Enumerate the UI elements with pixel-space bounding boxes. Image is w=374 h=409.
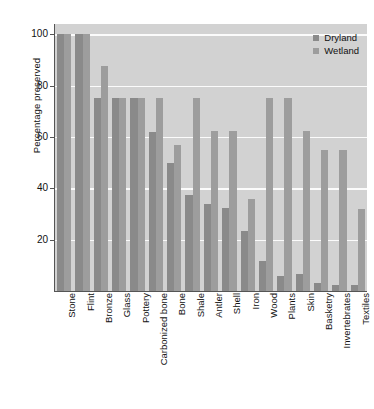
bar-dryland [314,283,321,291]
bar-wetland [303,131,310,291]
bar-wetland [248,199,255,291]
bar-group [351,24,365,291]
bar-group [296,24,310,291]
x-tick-label: Glass [122,293,132,317]
legend-swatch-wetland [313,48,319,54]
bar-wetland [229,131,236,291]
bar-group [167,24,181,291]
y-tick-label: 100 [31,29,48,39]
bar-group [241,24,255,291]
bar-dryland [149,132,156,291]
legend-item-wetland: Wetland [313,44,359,57]
bar-group [332,24,346,291]
bar-dryland [222,208,229,291]
x-tick-label: Iron [251,293,261,309]
bar-dryland [75,34,82,291]
bar-wetland [64,34,71,291]
bar-group [204,24,218,291]
bar-wetland [83,34,90,291]
x-tick-label: Invertebrates [342,293,352,348]
bar-group [57,24,71,291]
bar-wetland [101,66,108,291]
x-tick-label: Shell [232,293,242,314]
bar-group [149,24,163,291]
x-tick-label: Plants [287,293,297,319]
bar-dryland [296,274,303,291]
bar-wetland [156,98,163,291]
x-tick-label: Wood [269,293,279,318]
bar-wetland [339,150,346,291]
x-axis-tick-labels: StoneFlintBronzeGlassPotteryCarbonized b… [54,293,366,405]
bar-wetland [266,98,273,291]
bar-group [314,24,328,291]
bar-dryland [277,276,284,291]
bar-wetland [119,98,126,291]
x-tick-label: Stone [67,293,77,318]
bar-dryland [112,98,119,291]
bar-group [130,24,144,291]
x-tick-label: Skin [306,293,316,311]
chart-legend: Dryland Wetland [313,31,359,57]
bar-wetland [321,150,328,291]
bar-dryland [94,98,101,291]
bar-wetland [211,131,218,291]
bar-dryland [259,261,266,291]
bar-group [112,24,126,291]
x-tick-label: Pottery [141,293,151,323]
bar-wetland [138,98,145,291]
legend-item-dryland: Dryland [313,31,359,44]
x-tick-label: Bronze [104,293,114,323]
bar-chart-figure: Percentage preserved 20406080100 Dryland… [0,0,374,409]
x-tick-label: Bone [177,293,187,315]
bar-dryland [332,285,339,291]
legend-label-dryland: Dryland [324,31,357,44]
y-tick-label: 80 [37,81,48,91]
bar-group [259,24,273,291]
bar-group [94,24,108,291]
bar-dryland [167,163,174,291]
bar-dryland [185,195,192,291]
y-tick-label: 20 [37,235,48,245]
x-tick-label: Carbonized bone [159,293,169,365]
bar-dryland [351,285,358,291]
bar-dryland [57,34,64,291]
x-tick-label: Flint [86,293,96,311]
bar-wetland [174,145,181,291]
bar-group [75,24,89,291]
bar-group [222,24,236,291]
x-tick-label: Textiles [361,293,371,325]
y-tick-label: 60 [37,132,48,142]
plot-area: 20406080100 Dryland Wetland [54,24,367,292]
bar-group [185,24,199,291]
bar-dryland [241,231,248,291]
bar-wetland [358,209,365,291]
bar-group [277,24,291,291]
bar-dryland [204,204,211,291]
x-tick-label: Antler [214,293,224,318]
legend-label-wetland: Wetland [324,44,359,57]
bar-wetland [193,98,200,291]
x-tick-label: Basketry [324,293,334,330]
bar-wetland [284,98,291,291]
legend-swatch-dryland [313,35,319,41]
bar-dryland [130,98,137,291]
x-tick-label: Shale [196,293,206,317]
bar-series-container [55,24,367,291]
y-tick-label: 40 [37,183,48,193]
